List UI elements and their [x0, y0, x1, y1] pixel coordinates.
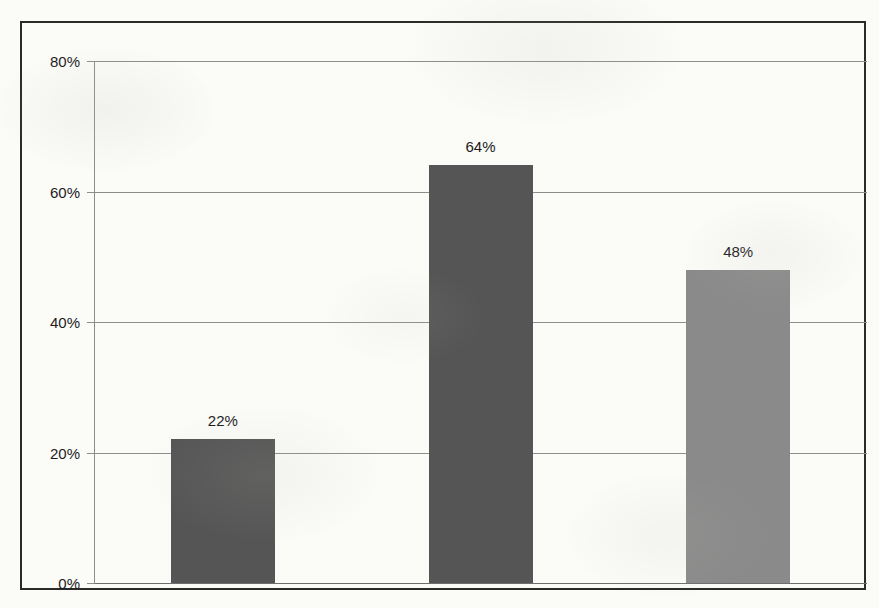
- bar-value-label: 64%: [421, 138, 541, 155]
- gridline-80pct: [94, 61, 867, 62]
- y-axis-label: 40%: [22, 314, 80, 331]
- gridline-0pct: [94, 583, 867, 584]
- bar-value-label: 22%: [163, 412, 283, 429]
- y-axis-tick: [87, 453, 95, 454]
- y-axis-label: 80%: [22, 53, 80, 70]
- y-axis-tick: [87, 192, 95, 193]
- y-axis-label: 20%: [22, 444, 80, 461]
- bar-schweiz[interactable]: [429, 165, 533, 583]
- y-axis-tick: [87, 61, 95, 62]
- y-axis-tick: [87, 583, 95, 584]
- y-axis-tick: [87, 322, 95, 323]
- bar-gesamtkollektiv[interactable]: [686, 270, 790, 583]
- chart-frame: 22%Deutschland64%Schweiz48%Gesamtkollekt…: [20, 21, 866, 590]
- bar-value-label: 48%: [678, 243, 798, 260]
- y-axis-label: 60%: [22, 183, 80, 200]
- bar-deutschland[interactable]: [171, 439, 275, 583]
- y-axis-label: 0%: [22, 575, 80, 592]
- plot-area: 22%Deutschland64%Schweiz48%Gesamtkollekt…: [94, 61, 867, 583]
